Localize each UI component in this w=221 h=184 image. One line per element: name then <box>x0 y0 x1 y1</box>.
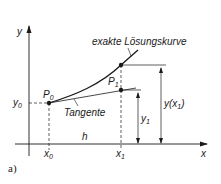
x0-tick-label: x0 <box>43 148 53 160</box>
point-exact-x1 <box>119 63 123 67</box>
p0-label: P0 <box>43 89 54 101</box>
x-axis-label: x <box>200 148 207 159</box>
point-p1 <box>119 88 123 92</box>
y-axis-label: y <box>16 26 23 37</box>
euler-method-diagram: y x exakte Lösungskurve Tangente P0 P1 y… <box>0 0 221 184</box>
y0-tick-label: y0 <box>12 97 22 109</box>
tangent-label-leader <box>74 99 78 106</box>
y-x1-dimension-label: y(x1) <box>163 98 185 110</box>
y1-dimension-label: y1 <box>140 113 150 125</box>
step-h-label: h <box>82 131 88 142</box>
point-p0 <box>47 101 51 105</box>
tangent-label: Tangente <box>64 107 106 118</box>
panel-label: a) <box>8 162 17 175</box>
curve-label-leader <box>128 48 131 56</box>
curve-label: exakte Lösungskurve <box>92 36 187 47</box>
p1-label: P1 <box>108 76 119 88</box>
x1-tick-label: x1 <box>115 148 125 160</box>
